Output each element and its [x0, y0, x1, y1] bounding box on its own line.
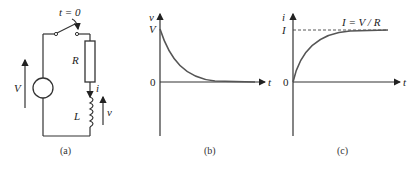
source-voltage-label: V: [14, 82, 22, 94]
x-axis-label: t: [268, 76, 272, 88]
current-label: i: [96, 82, 99, 94]
voltage-decay-graph: v V 0 t (b): [149, 11, 272, 157]
current-rise-graph: i I 0 t I = V / R (c): [281, 11, 407, 157]
asymptote-label: I = V / R: [341, 16, 381, 28]
origin-label: 0: [283, 76, 289, 88]
caption-c: (c): [337, 145, 348, 157]
circuit-diagram: t = 0 R i L V v (a): [14, 6, 112, 157]
origin-label: 0: [150, 76, 156, 88]
caption-a: (a): [60, 145, 71, 157]
resistor-label: R: [71, 54, 79, 66]
y-top-label: I: [281, 24, 287, 36]
y-top-label: V: [149, 23, 157, 35]
voltage-source: [33, 78, 53, 98]
voltage-curve: [160, 29, 255, 82]
resistor: [85, 41, 95, 82]
x-axis-label: t: [403, 76, 407, 88]
caption-b: (b): [204, 145, 216, 157]
y-axis-label: i: [282, 11, 285, 23]
inductor: [90, 97, 93, 127]
rl-circuit-figure: t = 0 R i L V v (a) v V 0 t (b): [0, 0, 418, 171]
inductor-voltage-label: v: [107, 106, 112, 118]
y-axis-label: v: [149, 11, 154, 23]
switch-blade: [57, 24, 75, 33]
switch-time-label: t = 0: [59, 6, 81, 18]
inductor-label: L: [73, 110, 80, 122]
current-curve: [293, 30, 388, 82]
